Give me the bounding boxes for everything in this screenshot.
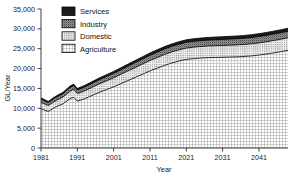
y-axis-title: GL/Year [3, 74, 12, 101]
y-tick-label: 15,000 [13, 84, 35, 93]
y-tick-label: 20,000 [13, 64, 35, 73]
x-axis: 1981199120012011202120312041 [33, 148, 288, 162]
chart-legend: ServicesIndustryDomesticAgriculture [62, 7, 116, 54]
y-axis-ticks: 05,00010,00015,00020,00025,00030,00035,0… [13, 5, 41, 153]
legend-label-services: Services [80, 7, 109, 16]
legend-label-domestic: Domestic [80, 32, 112, 41]
x-tick-label: 2031 [215, 153, 231, 162]
y-tick-label: 5,000 [17, 124, 35, 133]
legend-label-industry: Industry [80, 20, 107, 29]
x-tick-label: 2011 [142, 153, 157, 162]
legend-swatch-services [62, 7, 75, 15]
stacked-area-chart: 05,00010,00015,00020,00025,00030,00035,0… [0, 0, 293, 178]
x-tick-label: 2021 [178, 153, 194, 162]
x-axis-title: Year [157, 165, 172, 174]
x-tick-label: 2041 [251, 153, 267, 162]
y-tick-label: 25,000 [13, 44, 35, 53]
y-tick-label: 30,000 [13, 24, 35, 33]
chart-figure: 05,00010,00015,00020,00025,00030,00035,0… [0, 0, 293, 178]
legend-swatch-agriculture [62, 44, 75, 52]
x-tick-label: 1991 [69, 153, 85, 162]
legend-swatch-domestic [62, 32, 75, 40]
x-axis-ticks: 1981199120012011202120312041 [33, 148, 267, 162]
x-tick-label: 1981 [33, 153, 49, 162]
y-axis: 05,00010,00015,00020,00025,00030,00035,0… [13, 5, 41, 153]
y-tick-label: 35,000 [13, 5, 35, 14]
y-tick-label: 10,000 [13, 104, 35, 113]
y-tick-label: 0 [31, 144, 35, 153]
legend-label-agriculture: Agriculture [80, 45, 116, 54]
x-tick-label: 2001 [106, 153, 122, 162]
legend-swatch-industry [62, 19, 75, 27]
